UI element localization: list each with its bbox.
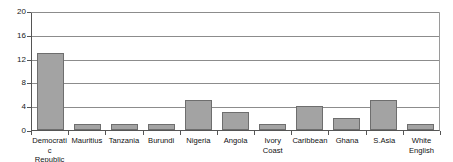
- x-axis-tick-mark: [366, 131, 367, 135]
- bar[interactable]: [259, 124, 286, 130]
- y-axis-tick-mark: [27, 36, 31, 37]
- x-axis-category-label: Nigeria: [180, 136, 217, 162]
- bar-slot: [365, 13, 402, 130]
- x-axis-category-label: Caribbean: [291, 136, 328, 162]
- x-axis-tick-mark: [180, 131, 181, 135]
- x-axis-category-label: S.Asia: [366, 136, 403, 162]
- y-axis-tick-mark: [27, 12, 31, 13]
- bar-slot: [106, 13, 143, 130]
- bar-series: [32, 13, 439, 130]
- x-axis-category-label: Burundi: [143, 136, 180, 162]
- bar-slot: [328, 13, 365, 130]
- x-axis-tick-mark: [31, 131, 32, 135]
- x-axis-category-label: Ivory Coast: [254, 136, 291, 162]
- x-axis-category-label: Tanzania: [105, 136, 142, 162]
- x-axis-tick-mark: [105, 131, 106, 135]
- bar-slot: [69, 13, 106, 130]
- bar[interactable]: [37, 53, 64, 130]
- x-axis-tick-marks: [31, 131, 440, 135]
- x-axis-tick-mark: [217, 131, 218, 135]
- x-axis-category-label: Mauritius: [68, 136, 105, 162]
- x-axis-category-labels: Democratic Republic ofMauritiusTanzaniaB…: [31, 136, 440, 162]
- bar[interactable]: [148, 124, 175, 130]
- x-axis-category-label: Angola: [217, 136, 254, 162]
- y-axis-tick-mark: [27, 107, 31, 108]
- bar-slot: [32, 13, 69, 130]
- bar[interactable]: [222, 112, 249, 130]
- bar-chart-figure: 048121620 Democratic Republic ofMauritiu…: [0, 0, 453, 162]
- x-axis-tick-mark: [440, 131, 441, 135]
- x-axis-category-label: White English: [403, 136, 440, 162]
- x-axis-tick-mark: [68, 131, 69, 135]
- bar[interactable]: [407, 124, 434, 130]
- y-axis-tick-label: 4: [0, 103, 26, 111]
- y-axis-tick-label: 12: [0, 56, 26, 64]
- x-axis-tick-mark: [254, 131, 255, 135]
- bar-slot: [143, 13, 180, 130]
- x-axis-category-label: Ghana: [329, 136, 366, 162]
- plot-area: [31, 12, 440, 131]
- y-axis-tick-label: 0: [0, 127, 26, 135]
- y-axis-tick-mark: [27, 83, 31, 84]
- bar-slot: [217, 13, 254, 130]
- bar-slot: [291, 13, 328, 130]
- bar[interactable]: [370, 100, 397, 130]
- bar[interactable]: [333, 118, 360, 130]
- y-axis-tick-mark: [27, 131, 31, 132]
- bar-slot: [180, 13, 217, 130]
- bar[interactable]: [296, 106, 323, 130]
- y-axis-tick-mark: [27, 60, 31, 61]
- y-axis-tick-label: 20: [0, 8, 26, 16]
- x-axis-tick-mark: [403, 131, 404, 135]
- bar[interactable]: [74, 124, 101, 130]
- bar-slot: [402, 13, 439, 130]
- y-axis-tick-labels: 048121620: [0, 12, 26, 131]
- x-axis-category-label: Democratic Republic of: [31, 136, 68, 162]
- y-axis-tick-label: 8: [0, 79, 26, 87]
- x-axis-tick-mark: [328, 131, 329, 135]
- x-axis-tick-mark: [143, 131, 144, 135]
- bar[interactable]: [185, 100, 212, 130]
- bar[interactable]: [111, 124, 138, 130]
- y-axis-tick-label: 16: [0, 32, 26, 40]
- x-axis-tick-mark: [291, 131, 292, 135]
- bar-slot: [254, 13, 291, 130]
